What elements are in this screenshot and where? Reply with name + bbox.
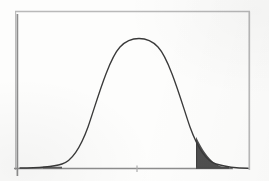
page-background (0, 0, 269, 181)
normal-distribution-figure (0, 0, 269, 181)
distribution-plot (0, 0, 269, 181)
